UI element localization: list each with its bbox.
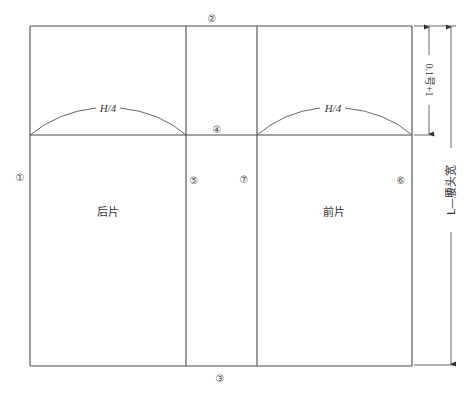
marker-1: ① [16,172,25,183]
marker-4: ④ [213,124,222,135]
pattern-diagram: H/4 H/4 0.1号+1 L—腰头宽 后片 前片 ① ② ③ ④ ⑤ ⑥ ⑦ [0,0,469,396]
dim-top-label: 0.1号+1 [424,63,435,96]
arc-front-left [257,108,320,135]
dim-total-label: L—腰头宽 [444,165,458,215]
arc-back-right [120,108,186,135]
arc-back-left [30,108,96,135]
arc-back-label: H/4 [99,102,117,114]
marker-6: ⑥ [397,175,406,186]
front-piece-label: 前片 [323,205,345,219]
marker-3: ③ [216,373,225,384]
marker-5: ⑤ [190,175,199,186]
back-piece-label: 后片 [97,206,119,219]
arc-front-label: H/4 [324,102,342,114]
marker-2: ② [208,13,217,24]
arc-front-right [345,108,412,135]
marker-7: ⑦ [240,174,249,185]
